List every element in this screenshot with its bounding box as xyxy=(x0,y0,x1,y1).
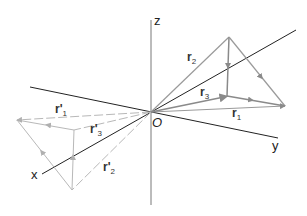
vector-r-prime-2 xyxy=(72,112,151,190)
edge-inner-to-right xyxy=(227,96,285,106)
z-axis-label: z xyxy=(154,13,161,28)
x-axis-label: x xyxy=(31,167,38,182)
y-axis-label: y xyxy=(272,138,279,153)
label-r-prime-3: r'3 xyxy=(90,122,103,138)
inversion-diagram: z y x O r2 r3 r1 r'1 r'3 r'2 xyxy=(0,0,307,216)
edge-top-to-inner xyxy=(227,37,229,96)
label-r2: r2 xyxy=(187,50,197,66)
origin-label: O xyxy=(152,115,162,130)
axes xyxy=(30,20,296,205)
edge-bottom-to-left xyxy=(17,120,72,190)
vector-r1 xyxy=(151,106,285,112)
edge-top-to-right xyxy=(229,37,285,106)
label-r3: r3 xyxy=(200,85,210,101)
edge-inner-to-left xyxy=(17,120,74,130)
label-r-prime-1: r'1 xyxy=(55,102,68,118)
edge-bottom-to-inner xyxy=(72,130,74,190)
vector-r-prime-1 xyxy=(17,112,151,120)
label-r-prime-2: r'2 xyxy=(103,160,116,176)
